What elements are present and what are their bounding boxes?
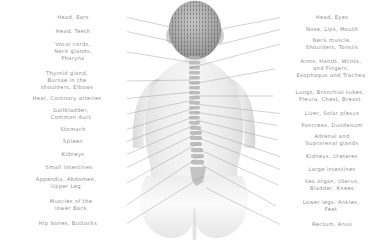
right-label-7: Adrenal and Suprarenal glands — [278, 133, 386, 147]
hair-texture — [169, 1, 221, 59]
left-label-7: Spleen — [20, 138, 126, 145]
right-label-4: Lungs, Bronchial tubes, Pleura, Chest, B… — [274, 89, 386, 103]
left-label-2: Vocal cords, Neck glands, Pharynx — [20, 41, 126, 63]
right-label-0: Head, Eyes — [281, 14, 383, 21]
right-label-1: Nose, Lips, Mouth — [281, 26, 383, 33]
left-label-10: Appendix, Abdomen, Upper Leg — [6, 176, 126, 190]
left-label-8: Kidneys — [20, 151, 126, 158]
left-label-6: Stomach — [20, 126, 126, 133]
right-label-2: Neck muscle, Shoulders, Tonsils — [281, 37, 383, 51]
left-label-5: Gallbladder, Common duct — [16, 107, 126, 121]
left-label-0: Head, Ears — [20, 14, 126, 21]
left-label-4: Hear, Coronary arteries — [8, 95, 126, 102]
right-label-11: Lower legs, Ankles, Feet — [277, 199, 385, 213]
right-label-12: Rectum, Anus — [281, 221, 383, 228]
left-label-3: Thyroid gland, Bursae in the shoulders, … — [8, 70, 126, 92]
right-label-6: Pancreas, Duodenum — [278, 122, 386, 129]
left-label-11: Muscles of the lower Back — [16, 198, 126, 212]
right-label-10: Sex organ, Uterus, Bladder, Knees — [279, 178, 385, 192]
right-label-8: Kidneys, Ureteres — [281, 153, 383, 160]
left-label-12: Hip bones, Buttocks — [10, 220, 126, 227]
left-label-1: Head, Teeth — [20, 28, 126, 35]
left-label-9: Small intestines — [12, 164, 126, 171]
spinal-correspondence-diagram: Head, EarsHead, TeethVocal cords, Neck g… — [0, 0, 388, 240]
right-label-3: Arms, Hands, Wrists, and Fingers, Esopha… — [276, 58, 386, 80]
right-label-9: Large intestines — [281, 166, 383, 173]
right-label-5: Liver, Solar plexus — [281, 110, 383, 117]
